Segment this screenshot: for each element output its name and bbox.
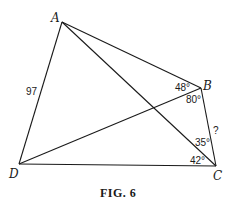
- angle-label-acb: 35°: [195, 137, 210, 148]
- side-label-bc: ?: [213, 125, 219, 136]
- side-label-ad: 97: [26, 86, 38, 97]
- segment-AB: [62, 22, 201, 88]
- vertex-label-b: B: [202, 79, 212, 93]
- vertex-label-a: A: [50, 11, 60, 25]
- angle-label-acd: 42°: [190, 155, 205, 166]
- figure-caption: FIG. 6: [100, 186, 136, 200]
- angle-label-dbc: 80°: [186, 94, 201, 105]
- vertex-label-c: C: [213, 169, 222, 183]
- segment-CD: [19, 164, 216, 166]
- angle-label-abd: 48°: [175, 82, 190, 93]
- vertex-label-d: D: [8, 167, 19, 181]
- geometry-figure: A B C D 97 ? 48° 80° 35° 42° FIG. 6: [0, 0, 236, 200]
